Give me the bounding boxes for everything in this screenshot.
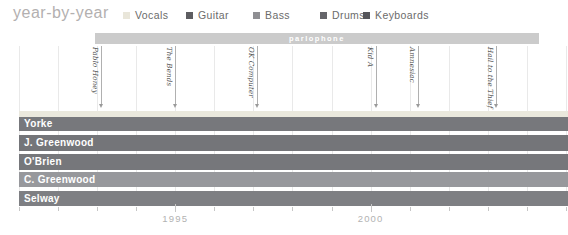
- member-row: C. Greenwood: [19, 172, 568, 187]
- album-marker-line: [496, 46, 497, 105]
- legend-swatch-icon: [186, 12, 193, 19]
- album-label: OK Computer: [247, 47, 255, 98]
- legend-swatch-icon: [123, 12, 130, 19]
- album-arrow-icon: [99, 104, 103, 108]
- album-arrow-icon: [494, 104, 498, 108]
- axis-tick-major: [371, 204, 372, 212]
- axis-tick-minor: [136, 207, 137, 211]
- member-row: Yorke: [19, 111, 568, 131]
- page-title: year-by-year: [13, 4, 109, 22]
- album-marker-line: [257, 46, 258, 105]
- legend-swatch-icon: [363, 12, 370, 19]
- legend-label: Keyboards: [375, 9, 429, 21]
- legend-item: Drums: [320, 8, 365, 22]
- album-marker-line: [101, 46, 102, 105]
- member-row: Selway: [19, 191, 568, 206]
- legend-label: Drums: [332, 9, 365, 21]
- record-label-bar: parlophone: [95, 33, 538, 44]
- album-marker-line: [175, 46, 176, 105]
- album-label: Kid A: [366, 47, 374, 67]
- axis-tick-minor: [58, 207, 59, 211]
- member-row: J. Greenwood: [19, 135, 568, 151]
- album-arrow-icon: [255, 104, 259, 108]
- legend-swatch-icon: [253, 12, 260, 19]
- album-label: Amnesiac: [408, 47, 416, 83]
- legend-label: Bass: [265, 9, 290, 21]
- member-bar-segment-bass: [19, 172, 568, 187]
- member-label: J. Greenwood: [24, 135, 94, 151]
- axis-year-label: 1995: [153, 213, 197, 224]
- record-label-bar-text: parlophone: [289, 33, 345, 44]
- axis-tick-minor: [253, 207, 254, 211]
- member-bar-segment-guitar: [19, 135, 568, 151]
- album-arrow-icon: [374, 104, 378, 108]
- axis-tick-minor: [488, 207, 489, 211]
- album-marker-line: [418, 46, 419, 105]
- album-label: Pablo Honey: [91, 47, 99, 94]
- legend-label: Guitar: [198, 9, 229, 21]
- legend-swatch-icon: [320, 12, 327, 19]
- legend-item: Vocals: [123, 8, 168, 22]
- member-bar-segment-guitar: [19, 117, 568, 131]
- album-marker-line: [376, 46, 377, 105]
- member-bar-segment-guitar: [19, 154, 568, 170]
- album-arrow-icon: [173, 104, 177, 108]
- axis-year-label: 2000: [349, 213, 393, 224]
- axis-tick-minor: [214, 207, 215, 211]
- axis-tick-minor: [527, 207, 528, 211]
- axis-tick-minor: [292, 207, 293, 211]
- album-arrow-icon: [416, 104, 420, 108]
- axis-tick-minor: [566, 207, 567, 211]
- legend-item: Guitar: [186, 8, 229, 22]
- album-label: Hail to the Thief: [486, 47, 494, 108]
- axis-tick-minor: [410, 207, 411, 211]
- member-label: Yorke: [24, 117, 53, 131]
- axis-tick-minor: [449, 207, 450, 211]
- band-timeline-infographic: year-by-year VocalsGuitarBassDrumsKeyboa…: [0, 0, 568, 235]
- member-label: O'Brien: [24, 154, 62, 170]
- member-label: Selway: [24, 191, 60, 206]
- legend-item: Bass: [253, 8, 290, 22]
- album-label: The Bends: [165, 47, 173, 86]
- axis-tick-major: [175, 204, 176, 212]
- axis-tick-minor: [19, 207, 20, 211]
- axis-tick-minor: [97, 207, 98, 211]
- member-bar-segment-drums: [19, 191, 568, 206]
- legend-item: Keyboards: [363, 8, 429, 22]
- axis-tick-minor: [332, 207, 333, 211]
- member-label: C. Greenwood: [24, 172, 95, 187]
- legend-label: Vocals: [135, 9, 168, 21]
- member-row: O'Brien: [19, 154, 568, 170]
